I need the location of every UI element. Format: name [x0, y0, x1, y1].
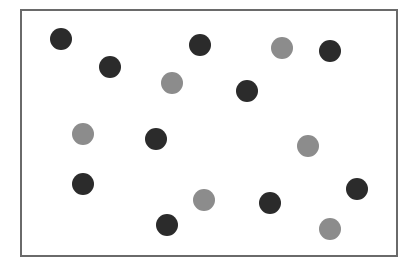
dark-dot-9 — [145, 128, 167, 150]
dark-dot-2 — [99, 56, 121, 78]
gray-dot-8 — [72, 123, 94, 145]
dark-dot-12 — [346, 178, 368, 200]
dot-canvas — [0, 0, 410, 265]
dark-dot-15 — [156, 214, 178, 236]
gray-dot-4 — [271, 37, 293, 59]
dark-dot-11 — [72, 173, 94, 195]
dark-dot-1 — [50, 28, 72, 50]
dark-dot-5 — [319, 40, 341, 62]
gray-dot-10 — [297, 135, 319, 157]
gray-dot-16 — [319, 218, 341, 240]
dark-dot-3 — [189, 34, 211, 56]
gray-dot-6 — [161, 72, 183, 94]
gray-dot-13 — [193, 189, 215, 211]
dark-dot-14 — [259, 192, 281, 214]
dark-dot-7 — [236, 80, 258, 102]
